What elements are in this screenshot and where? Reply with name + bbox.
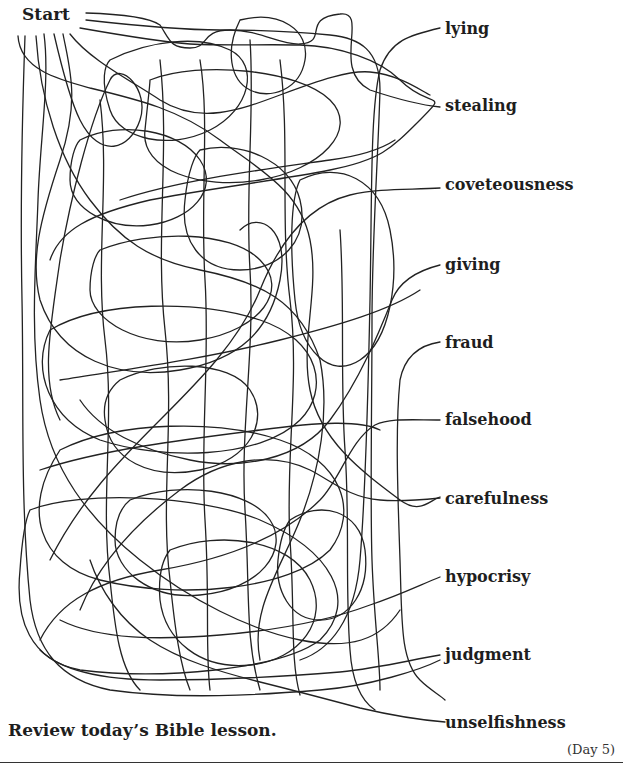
maze-line (42, 306, 316, 453)
endpoint-label-falsehood: falsehood (445, 410, 532, 429)
endpoint-label-lying: lying (445, 19, 489, 38)
maze-line (40, 420, 440, 640)
maze-line (145, 70, 340, 183)
endpoint-label-stealing: stealing (445, 96, 517, 115)
maze-line (36, 34, 282, 372)
maze-line (80, 460, 440, 610)
endpoint-label-unselfishness: unselfishness (445, 713, 566, 732)
instruction-text: Review today’s Bible lesson. (8, 720, 277, 740)
maze-line (104, 41, 247, 140)
maze-line (90, 236, 272, 342)
maze-line (231, 17, 305, 93)
bottom-divider (0, 762, 623, 763)
endpoint-label-fraud: fraud (445, 333, 494, 352)
maze-line (48, 34, 142, 420)
endpoint-label-coveteousness: coveteousness (445, 175, 574, 194)
endpoint-label-giving: giving (445, 255, 500, 274)
day-label: (Day 5) (567, 742, 615, 757)
maze-line (104, 366, 257, 472)
maze-line (397, 342, 445, 700)
maze-line (60, 290, 420, 380)
maze-line (100, 100, 140, 690)
maze-line (70, 130, 206, 226)
maze-line (300, 28, 440, 660)
maze-line (18, 36, 440, 507)
maze-line (280, 60, 300, 695)
maze-line (184, 147, 302, 270)
maze-line (21, 36, 440, 696)
maze-line (120, 140, 395, 200)
endpoint-label-carefulness: carefulness (445, 489, 548, 508)
endpoint-label-hypocrisy: hypocrisy (445, 567, 530, 586)
maze-line (39, 426, 344, 590)
maze-line (244, 40, 260, 690)
endpoint-label-judgment: judgment (445, 645, 531, 664)
